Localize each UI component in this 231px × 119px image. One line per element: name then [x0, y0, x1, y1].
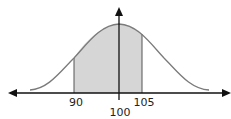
x-axis-right-arrow-icon: [222, 89, 231, 97]
y-axis-up-arrow-icon: [115, 7, 123, 16]
tick-label-100: 100: [110, 107, 131, 118]
tick-label-105: 105: [134, 97, 155, 108]
x-axis-left-arrow-icon: [8, 89, 17, 97]
normal-distribution-chart: [0, 0, 231, 119]
shaded-area: [74, 24, 142, 93]
tick-label-90: 90: [69, 97, 83, 108]
